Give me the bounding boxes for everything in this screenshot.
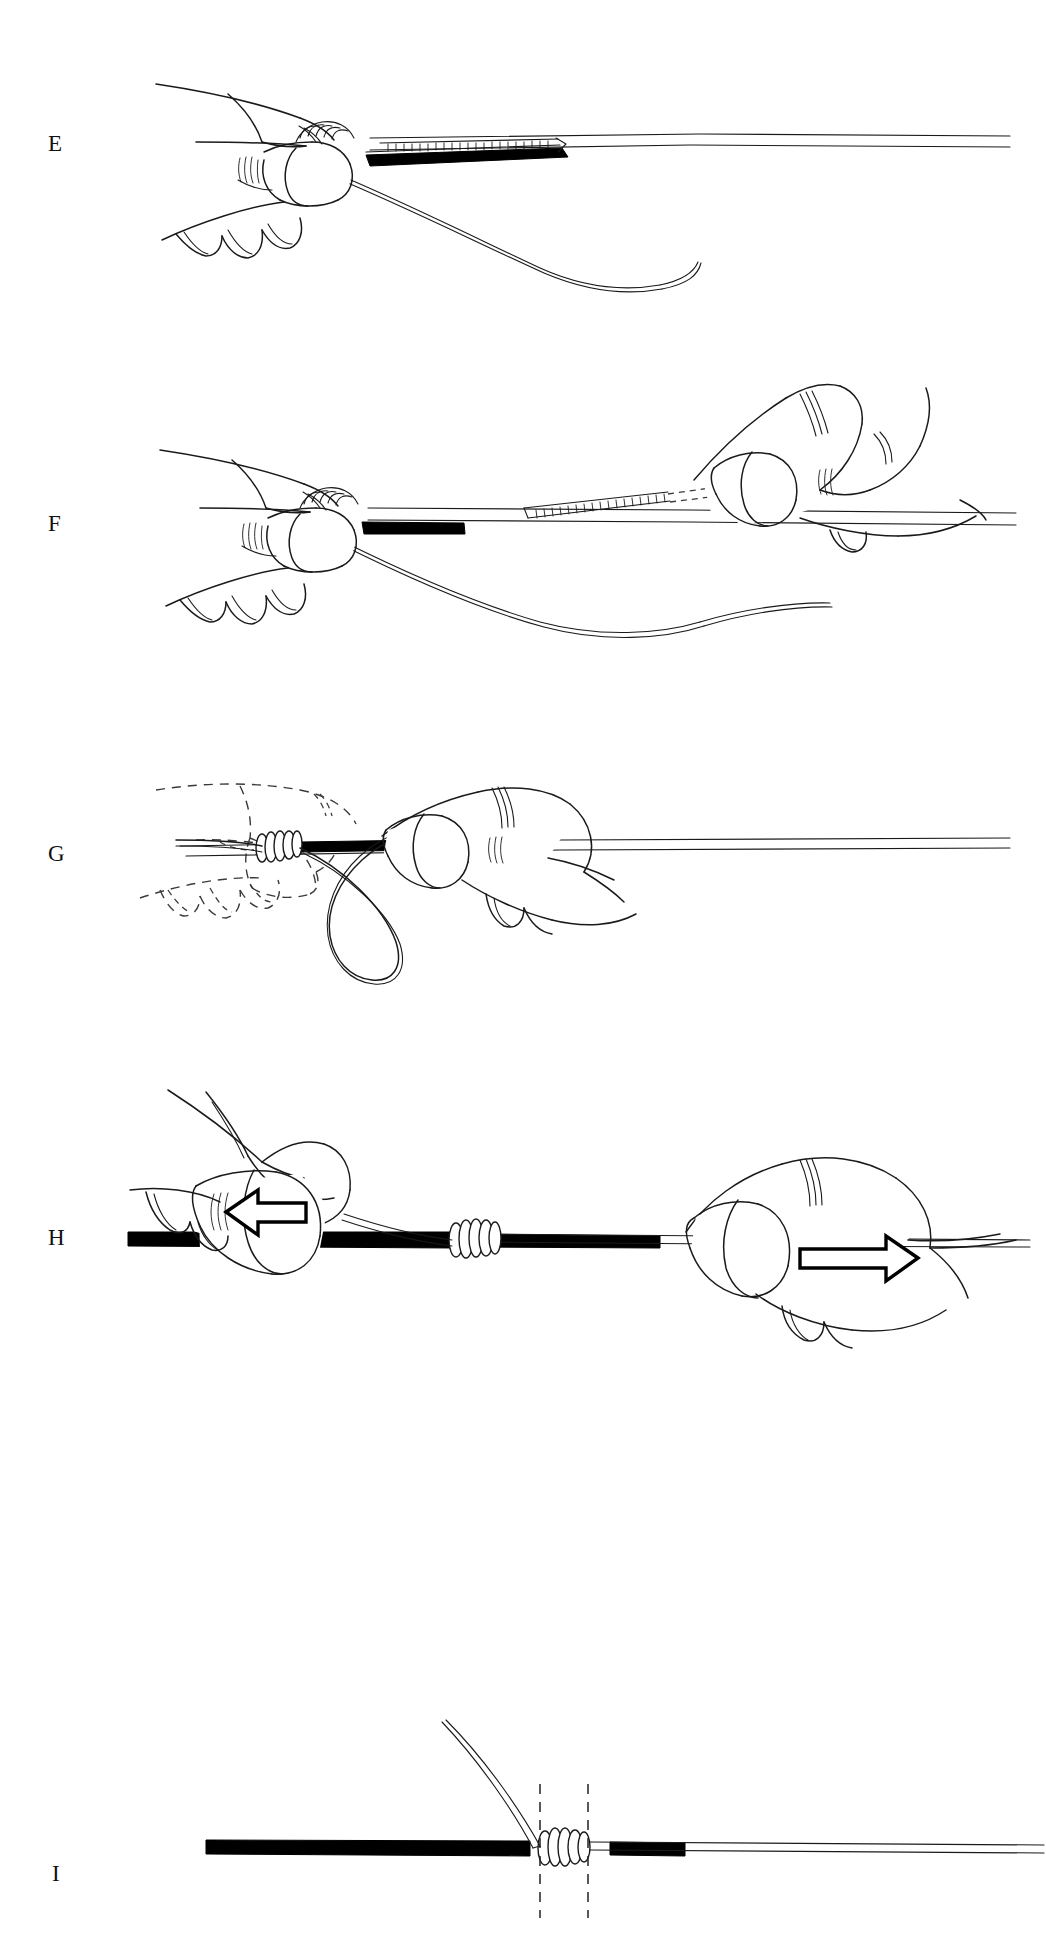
black-rod xyxy=(362,522,465,534)
suture-strand xyxy=(332,172,701,292)
panel-F: F xyxy=(0,350,1046,680)
left-hand-grip xyxy=(160,450,358,624)
straight-needle xyxy=(524,492,670,518)
coiled-knot xyxy=(256,831,302,862)
coiled-knot xyxy=(538,1828,590,1866)
figure-page: E xyxy=(0,0,1046,1939)
panel-I-illustration xyxy=(0,1600,1046,1939)
panel-E: E xyxy=(0,0,1046,340)
tube xyxy=(368,508,1016,525)
tube xyxy=(370,134,1010,150)
panel-H: H xyxy=(0,1090,1046,1410)
panel-H-illustration xyxy=(0,1090,1046,1410)
suture-strand xyxy=(336,538,832,637)
panel-G: G xyxy=(0,730,1046,1050)
panel-E-illustration xyxy=(0,0,1046,340)
cut-needle xyxy=(442,1720,540,1848)
right-hand-grip xyxy=(694,385,986,553)
right-hand-grip xyxy=(686,1158,1016,1348)
coiled-knot xyxy=(449,1219,501,1258)
panel-F-illustration xyxy=(0,350,1046,680)
panel-I: I xyxy=(0,1600,1046,1939)
panel-G-illustration xyxy=(0,730,1046,1050)
left-hand-grip xyxy=(156,84,354,258)
right-hand-grip xyxy=(382,782,636,934)
